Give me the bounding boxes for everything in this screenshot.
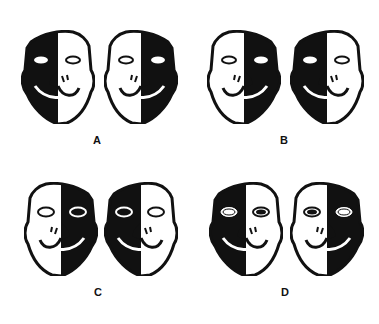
panel-label: B — [274, 134, 294, 146]
mask-left-black-right — [207, 30, 281, 124]
panel-a: A — [0, 0, 189, 162]
mask-right-black-left — [290, 30, 364, 124]
panel-label: A — [87, 134, 107, 146]
mask-left-black-right-ringed — [24, 182, 98, 276]
panel-d: D — [190, 162, 379, 324]
mask-right-black-right — [104, 30, 178, 124]
mask-left-black-left — [21, 30, 95, 124]
mask-right-black-right-ringed — [290, 182, 364, 276]
panel-b: B — [190, 0, 379, 162]
panel-label: C — [88, 286, 108, 298]
mask-left-black-left-ringed — [209, 182, 283, 276]
panel-c: C — [0, 162, 189, 324]
mask-right-black-left-ringed — [104, 182, 178, 276]
panel-label: D — [275, 286, 295, 298]
